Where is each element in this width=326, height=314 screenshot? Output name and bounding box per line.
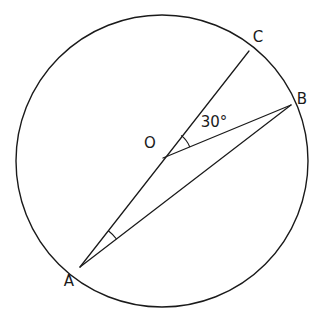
geometry-canvas: O A B C 30°	[0, 0, 326, 314]
segment-AC	[80, 51, 249, 267]
segment-AB	[80, 105, 291, 267]
label-central-angle: 30°	[201, 113, 228, 131]
angle-arc-at-A	[108, 231, 116, 239]
label-point-O: O	[144, 134, 156, 152]
label-point-A: A	[64, 272, 75, 290]
angle-arc-at-O	[181, 135, 190, 147]
label-point-B: B	[297, 90, 307, 108]
circle-outline	[16, 15, 308, 307]
geometry-figure: O A B C 30°	[0, 0, 326, 314]
label-point-C: C	[253, 28, 263, 46]
